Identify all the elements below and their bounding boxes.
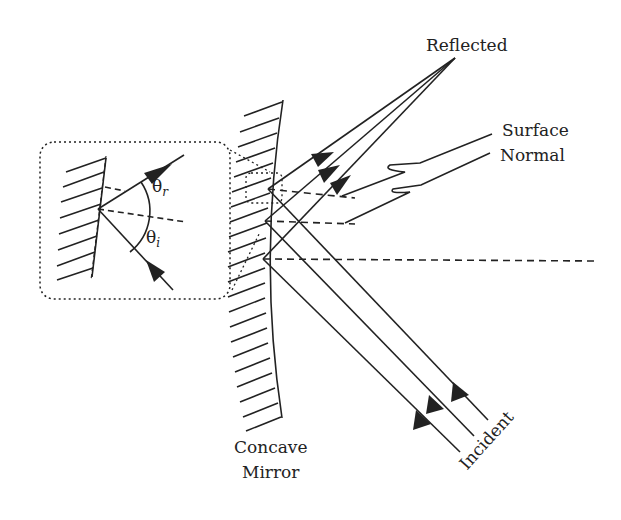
inset-dash-upper [105, 187, 125, 191]
theta-r-label: θr [152, 176, 168, 199]
concave-mirror-hatching [228, 102, 282, 431]
reflected-ray-3 [263, 58, 455, 259]
reflected-arrowhead-2 [318, 165, 340, 183]
label-mirror: Mirror [242, 462, 299, 482]
inset-incident-ray [98, 209, 173, 290]
normal-line-2 [265, 221, 355, 224]
incident-arrowhead-1 [451, 382, 469, 402]
label-normal: Normal [500, 145, 565, 165]
reflected-ray-2 [265, 58, 455, 221]
diagram-canvas [0, 0, 621, 520]
label-reflected: Reflected [426, 35, 508, 55]
normal-leader-1 [342, 134, 492, 196]
reflection-diagram: Reflected Surface Normal Concave Mirror … [0, 0, 621, 520]
incident-arrowhead-2 [426, 395, 444, 414]
theta-i-label: θi [146, 227, 160, 250]
incident-ray-2 [265, 221, 474, 436]
label-concave: Concave [234, 437, 308, 457]
label-surface: Surface [502, 120, 569, 140]
inset-normal-line [98, 209, 186, 222]
normal-line-3 [263, 259, 598, 261]
reflected-ray-1 [268, 58, 455, 189]
normal-line-1 [268, 189, 355, 198]
